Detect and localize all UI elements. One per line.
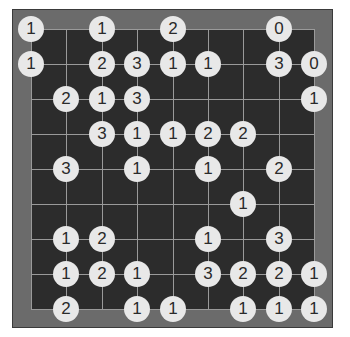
island[interactable]: 1 — [124, 261, 150, 287]
island[interactable]: 1 — [230, 191, 256, 217]
island[interactable]: 3 — [124, 86, 150, 112]
island[interactable]: 1 — [124, 296, 150, 322]
island[interactable]: 1 — [53, 261, 79, 287]
island[interactable]: 2 — [195, 121, 221, 147]
island[interactable]: 1 — [301, 86, 327, 112]
island[interactable]: 1 — [53, 226, 79, 252]
island[interactable]: 2 — [230, 261, 256, 287]
island[interactable]: 1 — [89, 86, 115, 112]
island[interactable]: 3 — [89, 121, 115, 147]
island[interactable]: 1 — [18, 16, 44, 42]
island[interactable]: 2 — [266, 261, 292, 287]
island[interactable]: 0 — [266, 16, 292, 42]
island[interactable]: 1 — [160, 296, 186, 322]
island[interactable]: 3 — [266, 226, 292, 252]
island[interactable]: 2 — [266, 156, 292, 182]
island[interactable]: 2 — [89, 261, 115, 287]
island[interactable]: 1 — [195, 156, 221, 182]
island[interactable]: 1 — [230, 296, 256, 322]
island[interactable]: 1 — [266, 296, 292, 322]
island[interactable]: 3 — [53, 156, 79, 182]
island[interactable]: 2 — [89, 51, 115, 77]
island[interactable]: 1 — [195, 51, 221, 77]
island[interactable]: 2 — [230, 121, 256, 147]
island[interactable]: 2 — [53, 296, 79, 322]
island[interactable]: 1 — [124, 156, 150, 182]
island[interactable]: 2 — [89, 226, 115, 252]
island[interactable]: 1 — [18, 51, 44, 77]
island[interactable]: 1 — [124, 121, 150, 147]
island[interactable]: 0 — [301, 51, 327, 77]
island[interactable]: 1 — [160, 51, 186, 77]
island[interactable]: 2 — [160, 16, 186, 42]
island[interactable]: 1 — [301, 261, 327, 287]
island[interactable]: 3 — [195, 261, 221, 287]
island[interactable]: 1 — [160, 121, 186, 147]
island[interactable]: 1 — [195, 226, 221, 252]
island[interactable]: 3 — [124, 51, 150, 77]
island[interactable]: 3 — [266, 51, 292, 77]
island[interactable]: 2 — [53, 86, 79, 112]
island[interactable]: 1 — [89, 16, 115, 42]
island[interactable]: 1 — [301, 296, 327, 322]
